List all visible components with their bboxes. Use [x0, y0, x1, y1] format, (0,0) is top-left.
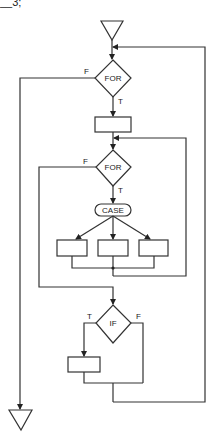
edge-if-true: [84, 323, 96, 356]
edge-if-false: [131, 323, 143, 383]
edge-case-a: [76, 216, 113, 239]
end-triangle: [9, 410, 32, 430]
if-label: IF: [109, 319, 116, 328]
case-box-b: [98, 240, 128, 256]
for2-label: FOR: [105, 163, 122, 172]
edge-if-merge: [84, 372, 143, 383]
for2-false-label: F: [83, 157, 88, 166]
if-true-label: T: [87, 312, 92, 321]
for2-true-label: T: [118, 186, 123, 195]
for1-label: FOR: [105, 74, 122, 83]
if-box: [68, 357, 100, 372]
for1-false-label: F: [84, 67, 89, 76]
case-box-c: [139, 240, 168, 256]
junction-dot: [111, 266, 114, 269]
for1-true-label: T: [118, 97, 123, 106]
edge-for2-false: [39, 167, 113, 304]
box1-rect: [95, 117, 131, 132]
flowchart-canvas: FOR F T FOR F T CASE IF T F: [0, 0, 222, 441]
edge-case-c: [113, 216, 150, 239]
start-triangle: [101, 21, 123, 40]
case-label: CASE: [102, 206, 124, 215]
case-box-a: [57, 240, 87, 256]
if-false-label: F: [136, 312, 141, 321]
